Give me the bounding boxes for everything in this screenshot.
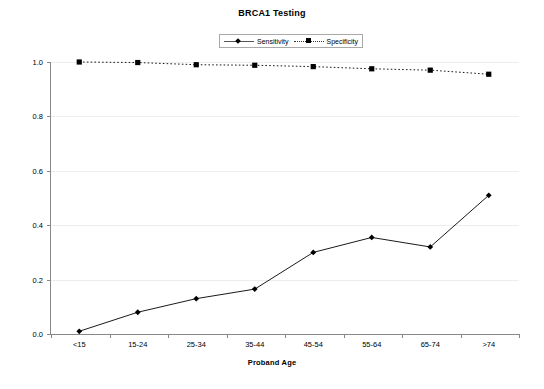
chart-container: BRCA1 Testing SensitivitySpecificity 0.0… xyxy=(0,0,544,389)
data-point-marker-specificity xyxy=(252,63,257,68)
x-axis-title: Proband Age xyxy=(0,358,544,367)
data-point-marker-sensitivity xyxy=(252,286,258,292)
series-layer xyxy=(50,62,518,334)
legend-swatch-diamond-icon xyxy=(224,37,254,46)
data-point-marker-sensitivity xyxy=(76,328,82,334)
data-point-marker-specificity xyxy=(486,72,491,77)
x-axis-tick-mark xyxy=(402,334,403,338)
series-line-sensitivity xyxy=(79,195,489,331)
data-point-marker-specificity xyxy=(194,62,199,67)
data-point-marker-sensitivity xyxy=(193,296,199,302)
chart-title: BRCA1 Testing xyxy=(0,8,544,18)
y-axis-tick-label: 0.4 xyxy=(33,221,43,230)
x-axis-tick-mark xyxy=(344,334,345,338)
y-axis-tick-label: 1.0 xyxy=(33,58,43,67)
x-axis-tick-label: 15-24 xyxy=(128,340,147,349)
x-axis-tick-mark xyxy=(285,334,286,338)
data-point-marker-specificity xyxy=(135,60,140,65)
x-axis-tick-mark xyxy=(51,334,52,338)
x-axis-tick-label: 65-74 xyxy=(421,340,440,349)
legend-swatch-square-icon xyxy=(294,37,324,46)
x-axis-tick-label: <15 xyxy=(73,340,86,349)
data-point-marker-specificity xyxy=(428,68,433,73)
legend-entry-sensitivity: Sensitivity xyxy=(224,37,289,46)
y-axis-tick-label: 0.0 xyxy=(33,330,43,339)
x-axis-tick-label: 35-44 xyxy=(245,340,264,349)
x-axis-tick-label: 45-54 xyxy=(304,340,323,349)
data-point-marker-sensitivity xyxy=(310,250,316,256)
y-axis-tick-label: 0.2 xyxy=(33,275,43,284)
y-axis-tick-label: 0.8 xyxy=(33,112,43,121)
x-axis-tick-mark xyxy=(227,334,228,338)
legend-label: Sensitivity xyxy=(257,38,289,45)
data-point-marker-specificity xyxy=(311,64,316,69)
legend-label: Specificity xyxy=(327,38,359,45)
series-line-specificity xyxy=(79,62,489,74)
y-axis-tick-label: 0.6 xyxy=(33,166,43,175)
data-point-marker-sensitivity xyxy=(369,235,375,241)
data-point-marker-specificity xyxy=(77,59,82,64)
x-axis-tick-mark xyxy=(110,334,111,338)
x-axis-tick-label: 25-34 xyxy=(187,340,206,349)
legend-entry-specificity: Specificity xyxy=(294,37,359,46)
chart-legend: SensitivitySpecificity xyxy=(219,34,363,48)
x-axis-tick-mark xyxy=(519,334,520,338)
x-axis-tick-label: >74 xyxy=(482,340,495,349)
x-axis-tick-label: 55-64 xyxy=(362,340,381,349)
x-axis-tick-mark xyxy=(168,334,169,338)
data-point-marker-sensitivity xyxy=(135,309,141,315)
x-axis-tick-mark xyxy=(461,334,462,338)
data-point-marker-specificity xyxy=(369,66,374,71)
